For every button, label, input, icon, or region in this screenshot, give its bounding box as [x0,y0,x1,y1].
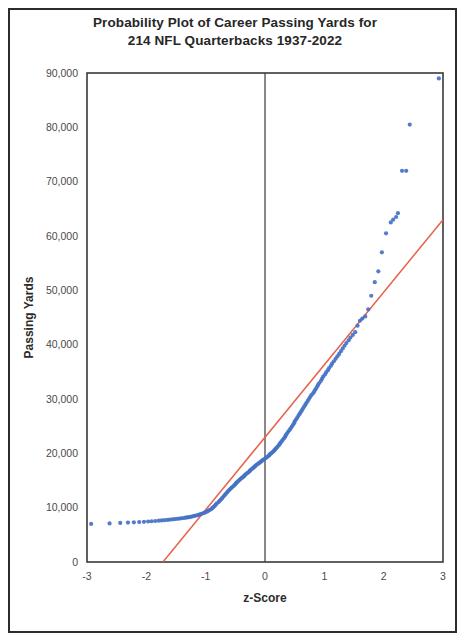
y-axis-tick-label: 80,000 [46,121,78,133]
chart-figure: Probability Plot of Career Passing Yards… [0,0,465,641]
x-axis-tick-label: 3 [440,570,446,582]
y-axis-tick-label: 50,000 [46,284,78,296]
data-point [437,76,441,80]
data-point [380,250,384,254]
data-point [408,123,412,127]
data-point [384,231,388,235]
data-point [150,519,154,523]
data-point [142,520,146,524]
y-axis-tick-label: 70,000 [46,175,78,187]
x-axis-tick-label: -1 [201,570,210,582]
y-axis-title: Passing Yards [22,276,36,358]
y-axis-tick-label: 90,000 [46,67,78,79]
x-axis-title: z-Score [243,591,287,605]
data-point [404,169,408,173]
data-point [126,521,130,525]
data-point [89,522,93,526]
data-point [373,280,377,284]
x-axis-tick-label: 2 [381,570,387,582]
data-point [400,169,404,173]
data-point [366,307,370,311]
data-point [369,294,373,298]
data-point [137,520,141,524]
y-axis-tick-label: 40,000 [46,338,78,350]
x-axis-tick-label: -3 [82,570,91,582]
data-point [363,314,367,318]
x-axis-tick-label: 0 [262,570,268,582]
data-point [146,519,150,523]
x-axis-tick-label: 1 [321,570,327,582]
data-point [153,519,157,523]
x-axis-tick-label: -2 [142,570,151,582]
data-point [355,324,359,328]
y-axis-tick-label: 60,000 [46,230,78,242]
data-point [396,211,400,215]
data-point [376,269,380,273]
data-point [394,215,398,219]
y-axis-tick-label: 30,000 [46,393,78,405]
data-point [353,330,357,334]
y-axis-tick-label: 20,000 [46,447,78,459]
y-axis-tick-label: 0 [72,556,78,568]
probability-plot: 010,00020,00030,00040,00050,00060,00070,… [0,0,465,641]
data-point [132,520,136,524]
data-point [107,521,111,525]
data-point [118,521,122,525]
y-axis-tick-label: 10,000 [46,501,78,513]
